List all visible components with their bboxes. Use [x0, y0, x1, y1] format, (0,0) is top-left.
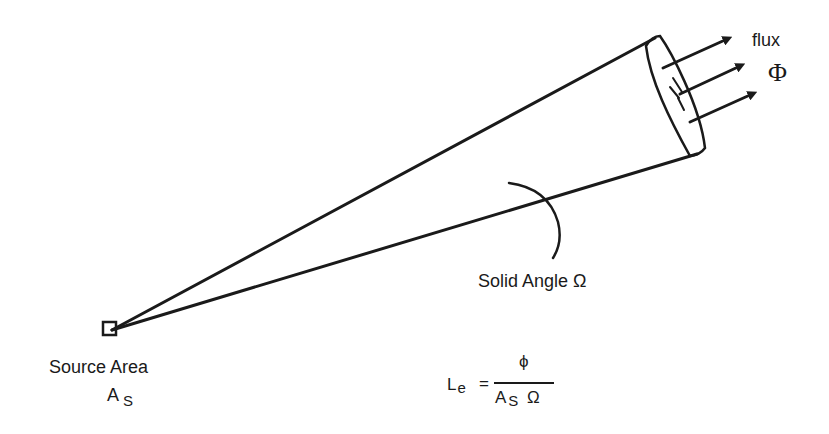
formula-denominator-angle: Ω	[527, 388, 540, 407]
formula-fraction-bar	[494, 382, 554, 384]
formula-lhs: Le	[447, 375, 466, 395]
source-area-label: Source Area	[49, 358, 148, 376]
formula-lhs-symbol: L	[447, 375, 456, 394]
source-area-symbol: AS	[107, 386, 133, 404]
hatch-mark	[673, 78, 682, 92]
flux-arrow-3	[690, 95, 750, 122]
formula-denominator: AS Ω	[495, 388, 540, 408]
hatch-mark	[678, 98, 684, 110]
formula-equals: =	[479, 374, 489, 394]
formula-lhs-subscript: e	[457, 379, 465, 396]
source-area-symbol-main: A	[107, 385, 119, 405]
source-area-symbol-subscript: S	[123, 392, 133, 409]
flux-arrow-2	[680, 67, 738, 94]
cone-lower-edge	[112, 154, 697, 330]
solid-angle-label: Solid Angle Ω	[478, 272, 587, 290]
formula-denominator-subscript: S	[508, 392, 518, 409]
flux-symbol: Φ	[768, 60, 787, 86]
formula-denominator-symbol: A	[495, 388, 506, 407]
flux-label: flux	[752, 31, 780, 49]
solid-angle-arc	[509, 183, 560, 258]
hatch-mark	[670, 87, 679, 98]
formula-numerator: ϕ	[519, 352, 529, 372]
